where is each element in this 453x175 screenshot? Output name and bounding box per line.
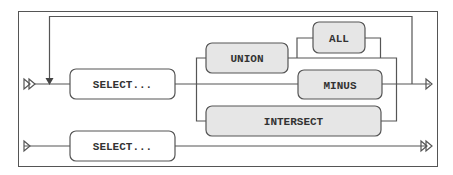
union-label: UNION — [230, 53, 263, 65]
all-branch-line — [297, 38, 313, 58]
intersect-node[interactable]: INTERSECT — [206, 106, 381, 136]
select-top-node[interactable]: SELECT... — [70, 69, 175, 99]
select-bottom-label: SELECT... — [93, 141, 152, 153]
all-node[interactable]: ALL — [313, 22, 365, 53]
left-branch-bus — [197, 58, 207, 121]
railroad-diagram: SELECT... UNION ALL MINUS INTERSECT SELE… — [0, 0, 453, 175]
minus-node[interactable]: MINUS — [298, 70, 382, 99]
intersect-label: INTERSECT — [264, 116, 324, 128]
select-top-label: SELECT... — [93, 79, 152, 91]
start-double-arrow-icon — [24, 79, 35, 89]
minus-label: MINUS — [323, 80, 356, 92]
select-bottom-node[interactable]: SELECT... — [70, 131, 175, 161]
all-label: ALL — [329, 33, 349, 45]
union-node[interactable]: UNION — [206, 43, 288, 73]
all-branch-return — [365, 38, 381, 58]
